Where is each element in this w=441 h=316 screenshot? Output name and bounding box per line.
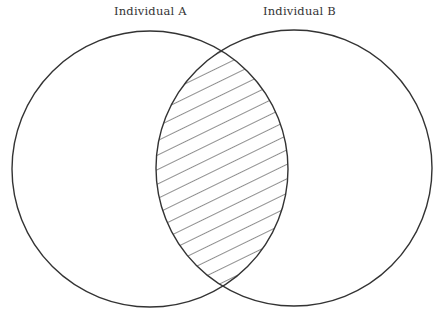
venn-diagram bbox=[0, 0, 441, 316]
intersection-hatched-region bbox=[156, 30, 432, 306]
